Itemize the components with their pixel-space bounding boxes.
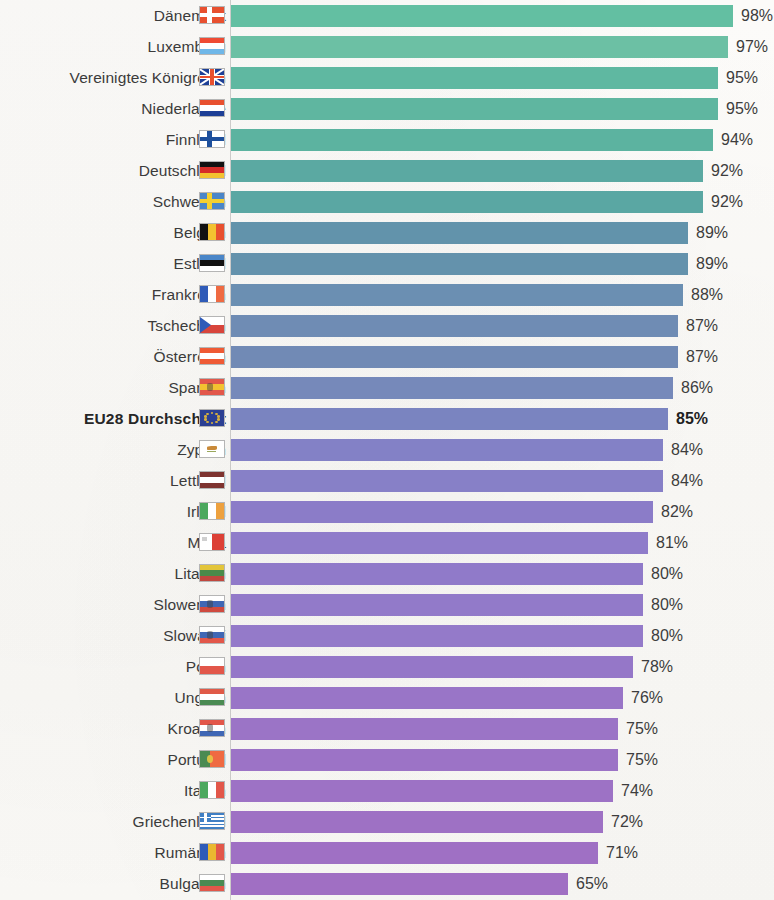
value-label: 71%: [606, 838, 638, 869]
chart-row: Schweden92%: [0, 187, 774, 218]
flag-icon: [199, 533, 225, 551]
value-bar: [231, 346, 678, 368]
value-label: 89%: [696, 249, 728, 280]
chart-row: Ungarn76%: [0, 683, 774, 714]
chart-row: Polen78%: [0, 652, 774, 683]
flag-icon: [199, 316, 225, 334]
value-label: 65%: [576, 869, 608, 900]
value-bar: [231, 36, 728, 58]
value-bar: [231, 5, 733, 27]
value-bar: [231, 563, 643, 585]
flag-icon: [199, 285, 225, 303]
value-label: 74%: [621, 776, 653, 807]
value-bar: [231, 160, 703, 182]
flag-icon: [199, 68, 225, 86]
chart-row: Vereinigtes Königreich95%: [0, 63, 774, 94]
value-label: 94%: [721, 125, 753, 156]
chart-row: Belgien89%: [0, 218, 774, 249]
chart-row: Kroatien75%: [0, 714, 774, 745]
flag-icon: [199, 719, 225, 737]
chart-row: Bulgarien65%: [0, 869, 774, 900]
flag-icon: [199, 409, 225, 427]
value-label: 81%: [656, 528, 688, 559]
flag-icon: [199, 99, 225, 117]
value-label: 75%: [626, 714, 658, 745]
chart-row: EU28 Durchschnitt85%: [0, 404, 774, 435]
flag-icon: [199, 440, 225, 458]
value-bar: [231, 408, 668, 430]
value-bar: [231, 594, 643, 616]
value-bar: [231, 67, 718, 89]
value-label: 87%: [686, 342, 718, 373]
value-bar: [231, 532, 648, 554]
chart-row: Italien74%: [0, 776, 774, 807]
chart-row: Frankreich88%: [0, 280, 774, 311]
chart-row: Slowakei80%: [0, 621, 774, 652]
chart-row: Lettland84%: [0, 466, 774, 497]
value-label: 75%: [626, 745, 658, 776]
flag-icon: [199, 471, 225, 489]
flag-icon: [199, 626, 225, 644]
chart-row: Zypern84%: [0, 435, 774, 466]
value-label: 95%: [726, 63, 758, 94]
value-label: 78%: [641, 652, 673, 683]
value-bar: [231, 98, 718, 120]
flag-icon: [199, 502, 225, 520]
value-label: 82%: [661, 497, 693, 528]
flag-icon: [199, 378, 225, 396]
value-bar: [231, 873, 568, 895]
flag-icon: [199, 37, 225, 55]
chart-row: Spanien86%: [0, 373, 774, 404]
flag-icon: [199, 781, 225, 799]
flag-icon: [199, 564, 225, 582]
chart-row: Irland82%: [0, 497, 774, 528]
chart-row: Finnland94%: [0, 125, 774, 156]
flag-icon: [199, 6, 225, 24]
value-bar: [231, 222, 688, 244]
chart-row: Litauen80%: [0, 559, 774, 590]
horizontal-bar-chart: Dänemark98%Luxemburg97%Vereinigtes König…: [0, 0, 774, 900]
flag-icon: [199, 657, 225, 675]
value-label: 95%: [726, 94, 758, 125]
value-label: 97%: [736, 32, 768, 63]
value-label: 92%: [711, 187, 743, 218]
flag-icon: [199, 347, 225, 365]
flag-icon: [199, 812, 225, 830]
value-bar: [231, 315, 678, 337]
value-label: 87%: [686, 311, 718, 342]
flag-icon: [199, 750, 225, 768]
flag-icon: [199, 192, 225, 210]
flag-icon: [199, 843, 225, 861]
value-label: 76%: [631, 683, 663, 714]
flag-icon: [199, 254, 225, 272]
flag-icon: [199, 688, 225, 706]
value-label: 89%: [696, 218, 728, 249]
value-bar: [231, 811, 603, 833]
value-label: 86%: [681, 373, 713, 404]
value-label: 84%: [671, 435, 703, 466]
value-label: 80%: [651, 621, 683, 652]
value-label: 85%: [676, 404, 708, 435]
chart-row: Rumänien71%: [0, 838, 774, 869]
chart-row: Dänemark98%: [0, 1, 774, 32]
value-label: 92%: [711, 156, 743, 187]
flag-icon: [199, 874, 225, 892]
value-label: 88%: [691, 280, 723, 311]
value-bar: [231, 470, 663, 492]
flag-icon: [199, 595, 225, 613]
value-label: 80%: [651, 590, 683, 621]
flag-icon: [199, 223, 225, 241]
value-bar: [231, 191, 703, 213]
chart-row: Slowenien80%: [0, 590, 774, 621]
value-bar: [231, 625, 643, 647]
value-label: 98%: [741, 1, 773, 32]
flag-icon: [199, 161, 225, 179]
value-label: 80%: [651, 559, 683, 590]
chart-row: Estland89%: [0, 249, 774, 280]
chart-row: Griechenland72%: [0, 807, 774, 838]
value-bar: [231, 749, 618, 771]
chart-row: Deutschland92%: [0, 156, 774, 187]
value-label: 72%: [611, 807, 643, 838]
value-bar: [231, 656, 633, 678]
chart-row: Malta81%: [0, 528, 774, 559]
